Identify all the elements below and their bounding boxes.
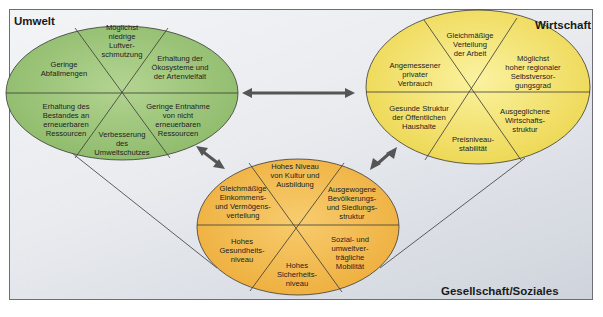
wirtschaft-segment-selbstversorgung: Möglichst hoher regionaler Selbstversor-…: [505, 54, 560, 90]
gesellschaft-segment-einkommen: Gleichmäßige Einkommens- und Vermögens- …: [215, 184, 271, 220]
umwelt-segment-umweltschutz: Verbesserung des Umweltschutzes: [94, 130, 149, 157]
umwelt-title: Umwelt: [14, 15, 55, 27]
umwelt-segment-abfall: Geringe Abfallmengen: [41, 60, 87, 78]
wirtschaft-segment-wirtschaftsstruktur: Ausgeglichene Wirtschafts- struktur: [500, 107, 550, 134]
gesellschaft-segment-bevoelkerung: Ausgewogene Bevölkerungs- und Siedlungs-…: [327, 185, 378, 221]
umwelt-segment-erneuerbar: Erhaltung des Bestandes an erneuerbaren …: [43, 102, 90, 138]
gesellschaft-segment-mobilitaet: Sozial- und umweltver- trägliche Mobilit…: [331, 235, 369, 271]
umwelt-segment-entnahme: Geringe Entnahme von nicht erneuerbaren …: [146, 102, 210, 138]
umwelt-segment-oekosysteme: Erhaltung der Ökosysteme und der Artenvi…: [152, 54, 209, 81]
arrow-umwelt-gesellschaft: [196, 146, 225, 169]
wirtschaft-segment-arbeit: Gleichmäßige Verteilung der Arbeit: [447, 31, 494, 58]
gesellschaft-segment-kultur: Hohes Niveau von Kultur und Ausbildung: [271, 162, 320, 189]
wirtschaft-segment-preisniveau: Preisniveau- stabilität: [452, 135, 494, 153]
projection-line-right: [380, 158, 525, 268]
arrow-wirtschaft-gesellschaft: [370, 147, 397, 170]
wirtschaft-title: Wirtschaft: [535, 19, 591, 31]
gesellschaft-segment-gesundheit: Hohes Gesundheits- niveau: [219, 237, 264, 264]
gesellschaft-title: Gesellschaft/Soziales: [441, 285, 559, 297]
umwelt-segment-luft: Möglichst niedrige Luftver- schmutzung: [102, 23, 143, 59]
arrow-umwelt-wirtschaft: [242, 88, 355, 98]
projection-line-left: [72, 153, 217, 268]
wirtschaft-segment-verbrauch: Angemessener privater Verbrauch: [389, 61, 440, 88]
wirtschaft-segment-haushalte: Gesunde Struktur der Öffentlichen Hausha…: [389, 104, 449, 131]
gesellschaft-segment-sicherheit: Hohes Sicherheits- niveau: [277, 261, 317, 288]
